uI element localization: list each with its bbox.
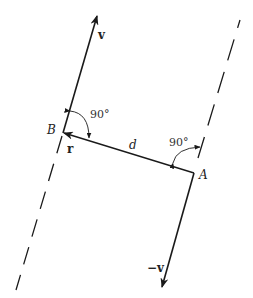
- label-angle-A: 90°: [169, 137, 189, 148]
- label-point-A: A: [199, 169, 208, 181]
- label-r: r: [67, 143, 73, 155]
- label-angle-B: 90°: [90, 109, 110, 120]
- dashed-line-through-B: [16, 136, 62, 290]
- angle-arc-B: [70, 111, 89, 138]
- dashed-line-through-A: [198, 20, 240, 158]
- label-neg-v: −v: [147, 262, 164, 274]
- vector-neg-v-line: [162, 173, 194, 287]
- label-v: v: [98, 29, 105, 41]
- angle-arc-A: [173, 147, 200, 163]
- label-d: d: [129, 139, 137, 151]
- label-point-B: B: [47, 124, 56, 136]
- diagram-figure: v 90° B r d 90° A −v: [0, 0, 253, 298]
